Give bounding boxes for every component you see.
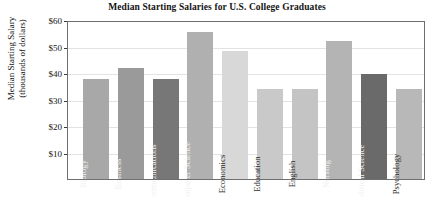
y-axis-tick-label: $60 xyxy=(49,16,63,26)
bar-chart: Median Starting Salaries for U.S. Colleg… xyxy=(0,0,434,197)
bar-category-label: English xyxy=(279,161,305,188)
bar-category-label: Political Science xyxy=(348,145,374,197)
bar-series: BiologyBusinessCommunicationsComputer Sc… xyxy=(68,21,425,179)
bar-category-label: Economics xyxy=(209,155,235,194)
y-axis-tick-label: $10 xyxy=(49,149,63,159)
bar-category-label: Business xyxy=(105,158,131,189)
bar-category-label: Nursing xyxy=(313,160,339,188)
bar-category-label: Computer Science xyxy=(174,142,200,197)
y-axis-title-line1: Median Starting Salary xyxy=(6,17,16,100)
bar-category-label: Education xyxy=(244,156,270,191)
y-axis-tick-label: $30 xyxy=(49,96,63,106)
bar-category-label: Communications xyxy=(140,144,166,197)
bar-category-label: Psychology xyxy=(383,154,409,195)
y-axis-tick-label: $20 xyxy=(49,122,63,132)
bar-category-label: Biology xyxy=(70,160,96,188)
y-axis-tick-label: $40 xyxy=(49,69,63,79)
y-axis-title: Median Starting Salary (thousands of dol… xyxy=(6,0,27,131)
y-axis-title-line2: (thousands of dollars) xyxy=(17,0,28,131)
plot-area: $10$20$30$40$50$60 BiologyBusinessCommun… xyxy=(67,21,425,180)
y-axis-tick-label: $50 xyxy=(49,43,63,53)
bar: Psychology xyxy=(396,89,422,179)
chart-title: Median Starting Salaries for U.S. Colleg… xyxy=(0,2,434,12)
